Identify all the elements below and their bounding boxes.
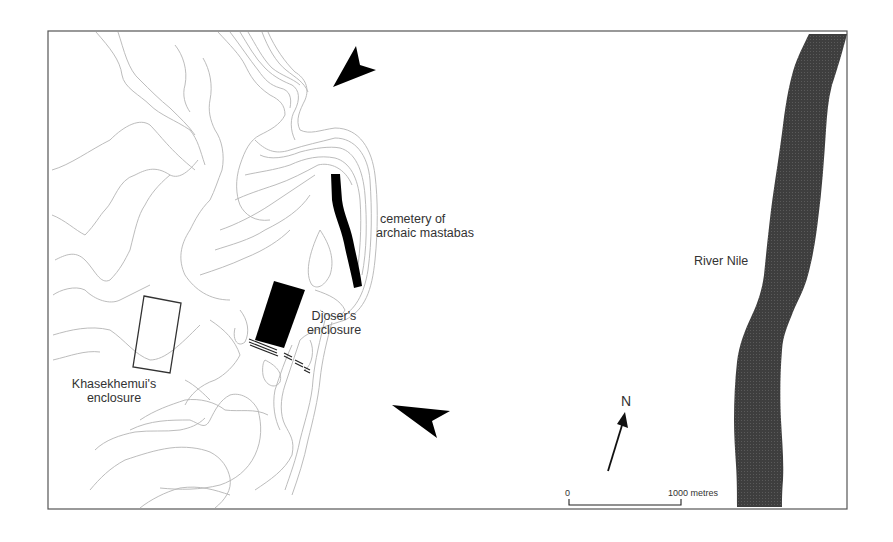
djoser-label: Djoser's enclosure bbox=[302, 309, 366, 337]
scale-start-label: 0 bbox=[565, 486, 570, 500]
khasekhemui-label-line1: Khasekhemui's bbox=[60, 377, 168, 391]
djoser-label-line2: enclosure bbox=[302, 323, 366, 337]
river-nile-label: River Nile bbox=[694, 254, 748, 268]
scale-end-label: 1000 metres bbox=[668, 486, 718, 500]
map-canvas bbox=[0, 0, 893, 542]
khasekhemui-label: Khasekhemui's enclosure bbox=[60, 377, 168, 405]
map-frame bbox=[48, 31, 847, 509]
khasekhemui-label-line2: enclosure bbox=[60, 391, 168, 405]
north-arrow-label: N bbox=[621, 394, 631, 408]
djoser-label-line1: Djoser's bbox=[302, 309, 366, 323]
cemetery-label-line1: cemetery of bbox=[377, 212, 474, 226]
cemetery-label-line2: archaic mastabas bbox=[376, 226, 474, 240]
cemetery-label: cemetery of archaic mastabas bbox=[377, 212, 474, 240]
